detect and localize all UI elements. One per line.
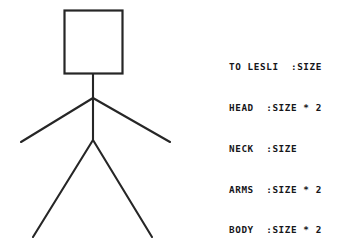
figure-head-square — [65, 11, 123, 74]
code-line-head: HEAD :SIZE * 2 — [229, 101, 351, 115]
screenshot-canvas: TO LESLI :SIZE HEAD :SIZE * 2 NECK :SIZE… — [0, 0, 353, 251]
figure-leg-right-line — [93, 140, 152, 237]
code-line-neck: NECK :SIZE — [229, 142, 351, 156]
figure-arm-left-line — [21, 98, 93, 142]
stick-figure-drawing — [0, 0, 190, 251]
figure-arm-right-line — [93, 98, 170, 142]
code-listing: TO LESLI :SIZE HEAD :SIZE * 2 NECK :SIZE… — [229, 33, 351, 251]
code-line-to-lesli: TO LESLI :SIZE — [229, 60, 351, 74]
figure-leg-left-line — [33, 140, 93, 237]
code-line-body: BODY :SIZE * 2 — [229, 223, 351, 237]
code-line-arms: ARMS :SIZE * 2 — [229, 183, 351, 197]
